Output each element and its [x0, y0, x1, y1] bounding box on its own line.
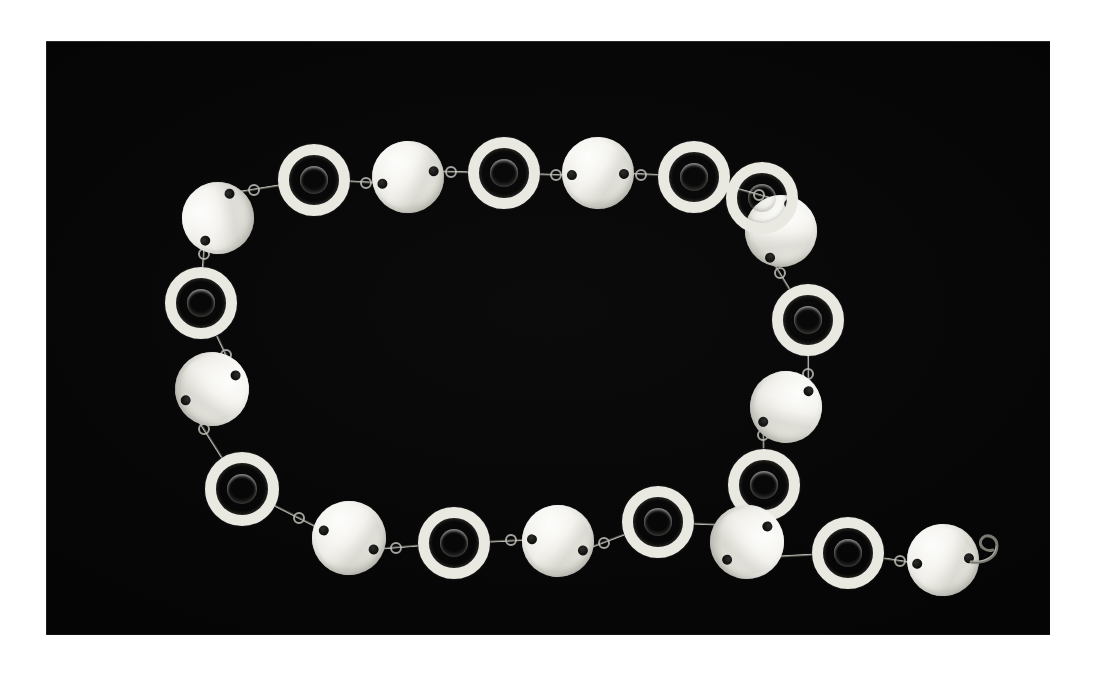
ring-inner-shading [633, 497, 683, 547]
ring-inner-shading [669, 152, 719, 202]
ring-inner-shading [289, 155, 339, 205]
disc-hole [721, 554, 733, 566]
disc-hole [964, 553, 975, 564]
disc-hole [368, 544, 379, 555]
chain-ring [468, 137, 540, 209]
shell-disc [370, 139, 447, 216]
disc-hole [802, 385, 814, 397]
wire-loop-icon [445, 166, 457, 178]
shell-disc [741, 362, 830, 451]
ring-inner-shading [783, 295, 833, 345]
ring-inner-shading [479, 148, 529, 198]
chain-ring [165, 267, 237, 339]
disc-hole [761, 520, 773, 532]
disc-hole [757, 416, 769, 428]
shell-disc [561, 136, 635, 210]
chain-ring [418, 507, 490, 579]
wire-loop-icon [635, 169, 647, 181]
disc-hole [230, 370, 241, 381]
wire-loop-icon [248, 184, 260, 196]
page-root: A necklace of white mother-of-pearl disc… [0, 0, 1094, 679]
ring-inner-shading [429, 518, 479, 568]
shell-disc [171, 348, 252, 429]
wire-loop-icon [360, 177, 372, 189]
disc-hole [763, 251, 777, 265]
shell-disc [517, 500, 598, 581]
necklace-photo [46, 41, 1050, 635]
chain-ring [658, 141, 730, 213]
ring-inner-shading [737, 173, 787, 223]
disc-hole [198, 234, 212, 248]
shell-disc [905, 522, 982, 599]
chain-ring [812, 517, 884, 589]
ring-inner-shading [216, 463, 268, 515]
ring-inner-shading [176, 278, 226, 328]
disc-hole [526, 534, 537, 545]
disc-hole [912, 558, 923, 569]
ring-inner-shading [739, 460, 789, 510]
disc-hole [428, 166, 439, 177]
wire-loop-icon [505, 534, 517, 546]
chain-ring [205, 452, 279, 526]
shell-disc [307, 496, 391, 580]
disc-hole [223, 187, 237, 201]
disc-hole [377, 178, 388, 189]
disc-hole [619, 169, 629, 179]
disc-sheen [312, 501, 386, 575]
wire-loop-icon [598, 537, 610, 549]
disc-sheen [374, 143, 442, 211]
chain-ring [622, 486, 694, 558]
ring-inner-shading [823, 528, 873, 578]
wire-loop-icon [894, 555, 906, 567]
disc-hole [180, 395, 191, 406]
disc-hole [577, 545, 588, 556]
wire-loop-icon [390, 542, 402, 554]
chain-ring [278, 144, 350, 216]
disc-hole [318, 525, 329, 536]
disc-hole [567, 170, 577, 180]
chain-ring [772, 284, 844, 356]
disc-sheen [176, 353, 248, 425]
chain-ring [726, 162, 798, 234]
shell-disc [167, 167, 268, 268]
wire-loop-icon [550, 169, 562, 181]
